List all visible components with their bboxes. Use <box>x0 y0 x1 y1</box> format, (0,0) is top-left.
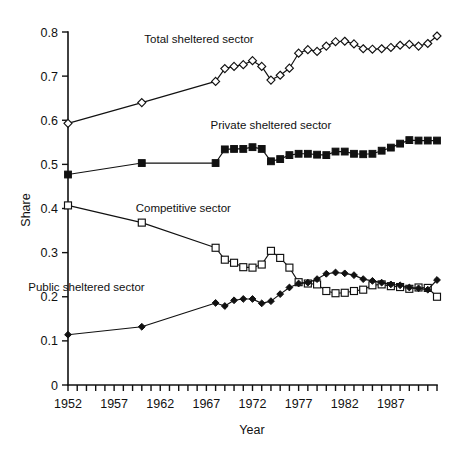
x-tick-label: 1957 <box>100 397 128 411</box>
data-point-marker <box>323 152 330 159</box>
data-point-marker <box>314 151 321 158</box>
x-tick-label: 1967 <box>192 397 220 411</box>
y-axis-tick-labels: 00.10.20.30.40.50.60.70.8 <box>41 26 58 393</box>
data-point-marker <box>212 244 219 251</box>
data-point-marker <box>341 148 348 155</box>
data-point-marker <box>138 160 145 167</box>
data-point-marker <box>231 146 238 153</box>
axes-layer <box>68 32 437 385</box>
data-point-marker <box>268 158 275 165</box>
series-total-sheltered-sector <box>64 32 441 127</box>
y-tick-label: 0.1 <box>41 334 58 348</box>
data-point-marker <box>434 293 441 300</box>
data-point-marker <box>360 286 367 293</box>
data-point-marker <box>240 264 247 271</box>
data-point-marker <box>249 57 257 65</box>
data-point-marker <box>387 43 395 51</box>
data-point-marker <box>212 77 220 85</box>
data-point-marker <box>231 297 238 304</box>
data-point-marker <box>332 269 339 276</box>
data-point-marker <box>397 140 404 147</box>
data-point-marker <box>212 160 219 167</box>
data-point-marker <box>405 40 413 48</box>
y-axis-title: Share <box>19 193 33 226</box>
data-point-marker <box>360 276 367 283</box>
data-point-marker <box>138 323 145 330</box>
y-tick-label: 0.8 <box>41 26 58 40</box>
x-tick-label: 1987 <box>377 397 405 411</box>
data-point-marker <box>258 261 265 268</box>
data-point-marker <box>341 37 349 45</box>
data-point-marker <box>359 45 367 53</box>
data-point-marker <box>230 62 238 70</box>
x-tick-label: 1962 <box>146 397 174 411</box>
data-point-marker <box>231 259 238 266</box>
data-point-marker <box>378 45 386 53</box>
data-point-marker <box>350 288 357 295</box>
chart-figure: 00.10.20.30.40.50.60.70.8 19521957196219… <box>0 0 458 450</box>
data-point-marker <box>351 272 358 279</box>
data-point-marker <box>368 45 376 53</box>
line-chart-canvas: 00.10.20.30.40.50.60.70.8 19521957196219… <box>0 0 458 450</box>
y-tick-label: 0.4 <box>41 202 58 216</box>
data-point-marker <box>138 219 145 226</box>
data-point-marker <box>267 76 275 84</box>
data-point-marker <box>258 146 265 153</box>
series-annotation-label: Total sheltered sector <box>144 33 253 45</box>
data-point-marker <box>323 288 330 295</box>
data-point-marker <box>415 137 422 144</box>
series-annotation-label: Private sheltered sector <box>211 119 332 131</box>
series-public-sheltered-sector <box>65 269 441 338</box>
data-point-marker <box>65 202 72 209</box>
data-point-marker <box>221 256 228 263</box>
data-point-marker <box>332 148 339 155</box>
data-point-marker <box>424 137 431 144</box>
series-annotation-label: Public sheltered sector <box>28 281 145 293</box>
data-point-marker <box>138 99 146 107</box>
data-point-marker <box>387 144 394 151</box>
data-point-marker <box>286 152 293 159</box>
data-point-marker <box>277 254 284 261</box>
x-axis-title: Year <box>239 423 264 437</box>
x-axis-tick-labels: 19521957196219671972197719821987 <box>54 397 405 411</box>
data-point-marker <box>304 150 311 157</box>
data-point-marker <box>434 137 441 144</box>
data-point-marker <box>332 38 340 46</box>
x-tick-label: 1977 <box>285 397 313 411</box>
data-point-marker <box>249 264 256 271</box>
data-point-marker <box>295 150 302 157</box>
x-axis-ticks <box>68 385 437 391</box>
data-point-marker <box>406 137 413 144</box>
y-tick-label: 0.7 <box>41 70 58 84</box>
data-point-marker <box>65 331 72 338</box>
data-point-marker <box>267 247 274 254</box>
data-point-marker <box>415 42 423 50</box>
data-point-marker <box>351 150 358 157</box>
data-point-marker <box>378 147 385 154</box>
data-point-marker <box>313 47 321 55</box>
data-point-marker <box>258 300 265 307</box>
data-point-marker <box>277 156 284 163</box>
data-point-marker <box>360 151 367 158</box>
data-point-marker <box>239 61 247 69</box>
data-point-marker <box>240 296 247 303</box>
series-private-sheltered-sector <box>65 137 441 178</box>
x-tick-label: 1982 <box>331 397 359 411</box>
data-point-marker <box>341 289 348 296</box>
series-annotation-label: Competitive sector <box>136 202 231 214</box>
data-point-marker <box>249 296 256 303</box>
data-point-marker <box>341 270 348 277</box>
data-point-marker <box>304 46 312 54</box>
data-point-marker <box>249 144 256 151</box>
data-point-marker <box>323 270 330 277</box>
data-point-marker <box>350 40 358 48</box>
y-tick-label: 0 <box>51 379 58 393</box>
data-point-marker <box>65 171 72 178</box>
data-point-marker <box>322 42 330 50</box>
data-point-marker <box>369 150 376 157</box>
data-point-marker <box>240 146 247 153</box>
y-tick-label: 0.6 <box>41 114 58 128</box>
y-tick-label: 0.5 <box>41 158 58 172</box>
data-point-marker <box>221 65 229 73</box>
y-tick-label: 0.3 <box>41 246 58 260</box>
